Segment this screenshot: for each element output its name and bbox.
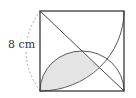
shaded-region bbox=[40, 51, 99, 91]
dimension-arc-dashed bbox=[26, 11, 40, 91]
side-length-label: 8 cm bbox=[7, 39, 36, 51]
